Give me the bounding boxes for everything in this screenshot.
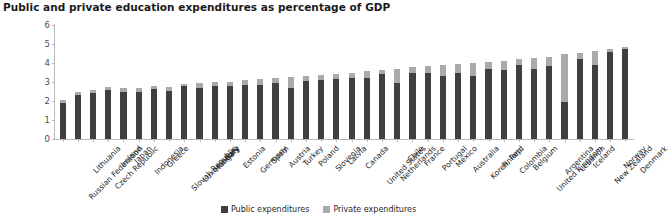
- bar-column[interactable]: [592, 25, 598, 139]
- bar-column[interactable]: [227, 25, 233, 139]
- bar-segment-public: [257, 85, 263, 139]
- bar-column[interactable]: [577, 25, 583, 139]
- legend-label: Public expenditures: [231, 205, 310, 214]
- bar-segment-private: [288, 77, 294, 87]
- bar-segment-public: [379, 74, 385, 139]
- x-tick-mark: [123, 139, 124, 142]
- bar-column[interactable]: [60, 25, 66, 139]
- bar-segment-public: [622, 49, 628, 139]
- bar-segment-private: [364, 71, 370, 79]
- x-tick-mark: [291, 139, 292, 142]
- bar-column[interactable]: [288, 25, 294, 139]
- x-tick-mark: [63, 139, 64, 142]
- bar-column[interactable]: [136, 25, 142, 139]
- bar-column[interactable]: [394, 25, 400, 139]
- x-tick-mark: [458, 139, 459, 142]
- bar-segment-public: [592, 65, 598, 139]
- bar-column[interactable]: [151, 25, 157, 139]
- bar-column[interactable]: [379, 25, 385, 139]
- bar-column[interactable]: [470, 25, 476, 139]
- bar-segment-private: [531, 58, 537, 68]
- bar-segment-public: [516, 65, 522, 139]
- bar-column[interactable]: [425, 25, 431, 139]
- x-tick-mark: [321, 139, 322, 142]
- bar-segment-public: [120, 92, 126, 139]
- bar-segment-private: [485, 62, 491, 69]
- bar-segment-public: [607, 52, 613, 139]
- bar-column[interactable]: [485, 25, 491, 139]
- bar-column[interactable]: [242, 25, 248, 139]
- bar-segment-public: [333, 79, 339, 139]
- bar-column[interactable]: [333, 25, 339, 139]
- bar-column[interactable]: [501, 25, 507, 139]
- legend-label: Private expenditures: [333, 205, 416, 214]
- bar-segment-public: [394, 83, 400, 139]
- x-tick-mark: [276, 139, 277, 142]
- bar-column[interactable]: [607, 25, 613, 139]
- x-tick-mark: [504, 139, 505, 142]
- bar-column[interactable]: [120, 25, 126, 139]
- x-tick-mark: [200, 139, 201, 142]
- x-tick-mark: [549, 139, 550, 142]
- bar-column[interactable]: [364, 25, 370, 139]
- bar-segment-public: [409, 73, 415, 140]
- x-tick-mark: [473, 139, 474, 142]
- bar-column[interactable]: [349, 25, 355, 139]
- bar-column[interactable]: [272, 25, 278, 139]
- legend-item[interactable]: Public expenditures: [221, 205, 310, 214]
- legend-swatch: [221, 206, 228, 213]
- x-tick-mark: [78, 139, 79, 142]
- bar-column[interactable]: [455, 25, 461, 139]
- bar-column[interactable]: [318, 25, 324, 139]
- x-tick-mark: [489, 139, 490, 142]
- legend-item[interactable]: Private expenditures: [323, 205, 416, 214]
- bar-column[interactable]: [181, 25, 187, 139]
- bar-column[interactable]: [516, 25, 522, 139]
- x-tick-mark: [595, 139, 596, 142]
- bar-segment-public: [577, 59, 583, 139]
- x-tick-mark: [169, 139, 170, 142]
- bar-column[interactable]: [75, 25, 81, 139]
- bar-segment-private: [425, 66, 431, 73]
- bar-column[interactable]: [212, 25, 218, 139]
- bar-column[interactable]: [196, 25, 202, 139]
- bar-segment-public: [318, 80, 324, 139]
- bar-column[interactable]: [90, 25, 96, 139]
- bar-segment-private: [440, 65, 446, 76]
- bar-column[interactable]: [440, 25, 446, 139]
- bar-segment-public: [561, 102, 567, 139]
- bar-segment-public: [440, 76, 446, 139]
- bar-column[interactable]: [409, 25, 415, 139]
- x-tick-mark: [108, 139, 109, 142]
- bar-column[interactable]: [622, 25, 628, 139]
- bar-column[interactable]: [303, 25, 309, 139]
- legend-swatch: [323, 206, 330, 213]
- bar-column[interactable]: [561, 25, 567, 139]
- bar-column[interactable]: [257, 25, 263, 139]
- chart-title: Public and private education expenditure…: [3, 1, 390, 13]
- bar-series-group: [55, 25, 633, 139]
- bar-segment-public: [546, 66, 552, 139]
- x-tick-mark: [139, 139, 140, 142]
- x-tick-mark: [230, 139, 231, 142]
- x-tick-mark: [382, 139, 383, 142]
- x-tick-mark: [443, 139, 444, 142]
- bar-segment-public: [60, 103, 66, 139]
- bar-column[interactable]: [105, 25, 111, 139]
- bar-segment-public: [288, 88, 294, 139]
- bar-column[interactable]: [166, 25, 172, 139]
- chart-legend: Public expendituresPrivate expenditures: [0, 205, 637, 214]
- bar-column[interactable]: [531, 25, 537, 139]
- x-tick-mark: [93, 139, 94, 142]
- bar-segment-public: [501, 70, 507, 139]
- bar-segment-private: [592, 51, 598, 65]
- bar-segment-private: [470, 63, 476, 76]
- x-tick-mark: [184, 139, 185, 142]
- bar-segment-private: [501, 61, 507, 70]
- bar-segment-public: [364, 78, 370, 139]
- bar-segment-public: [90, 93, 96, 139]
- bar-segment-public: [105, 90, 111, 139]
- x-tick-mark: [154, 139, 155, 142]
- bar-column[interactable]: [546, 25, 552, 139]
